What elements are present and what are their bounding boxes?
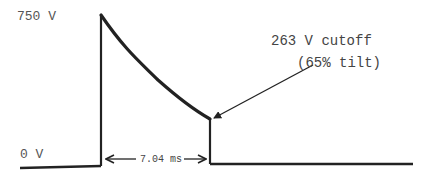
waveform-diagram: 750 V 0 V 263 V cutoff (65% tilt) 7.04 m…	[0, 0, 432, 176]
baseline-left	[20, 166, 101, 168]
cutoff-voltage-label: 263 V cutoff	[271, 34, 372, 48]
peak-voltage-label: 750 V	[17, 10, 56, 23]
baseline-voltage-label: 0 V	[20, 148, 43, 161]
cutoff-arrow	[214, 65, 313, 118]
duration-label: 7.04 ms	[138, 155, 184, 165]
decay-curve	[101, 15, 210, 119]
tilt-label: (65% tilt)	[297, 56, 381, 70]
waveform-svg	[0, 0, 432, 176]
